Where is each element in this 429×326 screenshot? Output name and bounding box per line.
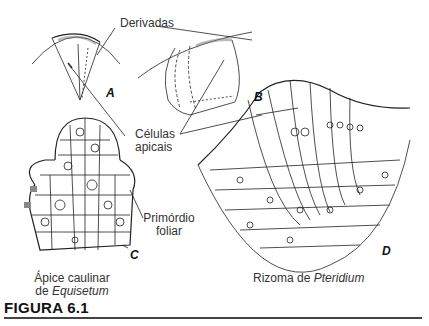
caption-d-prefix: Rizoma de [253, 271, 314, 285]
label-apicais-line2: apicais [135, 141, 175, 154]
panel-d-drawing [198, 80, 410, 272]
panel-b-drawing [138, 26, 262, 134]
caption-panel-d: Rizoma de Pteridium [253, 272, 364, 285]
caption-panel-c: Ápice caulinar de Equisetum [30, 272, 114, 298]
panel-letter-d: D [382, 244, 391, 258]
figure-caption: FIGURA 6.1 [4, 299, 89, 316]
label-derivadas: Derivadas [120, 17, 174, 30]
label-celulas-apicais: Células apicais [135, 128, 175, 154]
panel-letter-b: B [254, 90, 263, 104]
caption-c-prefix: de [35, 284, 52, 298]
panel-c-drawing [24, 118, 143, 250]
panel-letter-a: A [106, 86, 115, 100]
label-foliar-line2: foliar [143, 225, 195, 238]
caption-d-genus: Pteridium [314, 271, 365, 285]
caption-c-line2: de Equisetum [30, 285, 114, 298]
panel-a-drawing [32, 28, 125, 136]
caption-rule [4, 317, 422, 319]
panel-letter-c: C [130, 248, 139, 262]
label-primordio-foliar: Primórdio foliar [143, 212, 195, 238]
caption-c-genus: Equisetum [52, 284, 109, 298]
